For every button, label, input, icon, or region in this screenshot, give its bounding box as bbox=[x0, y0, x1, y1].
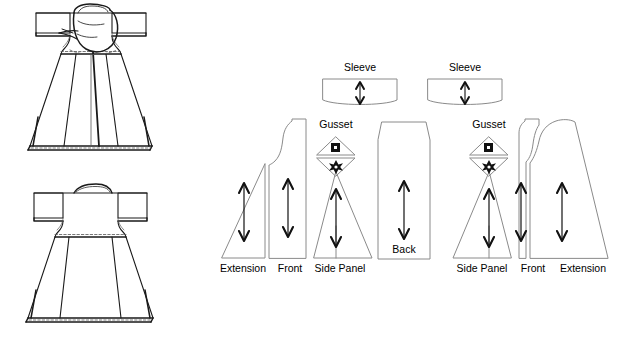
label-side-panel-right: Side Panel bbox=[457, 263, 508, 274]
label-sleeve-left: Sleeve bbox=[344, 62, 376, 73]
label-front-right: Front bbox=[521, 263, 546, 274]
label-gusset-right: Gusset bbox=[472, 119, 505, 130]
pattern-labels-layer: Sleeve Sleeve Gusset Gusset Extension Fr… bbox=[0, 0, 630, 339]
label-back-center: Back bbox=[392, 244, 415, 255]
label-gusset-left: Gusset bbox=[319, 119, 352, 130]
label-front-left: Front bbox=[278, 263, 303, 274]
label-extension-left: Extension bbox=[220, 263, 266, 274]
pattern-layout-figure: Sleeve Sleeve Gusset Gusset Extension Fr… bbox=[0, 0, 630, 339]
label-sleeve-right: Sleeve bbox=[449, 62, 481, 73]
label-side-panel-left: Side Panel bbox=[315, 263, 366, 274]
label-extension-right: Extension bbox=[560, 263, 606, 274]
